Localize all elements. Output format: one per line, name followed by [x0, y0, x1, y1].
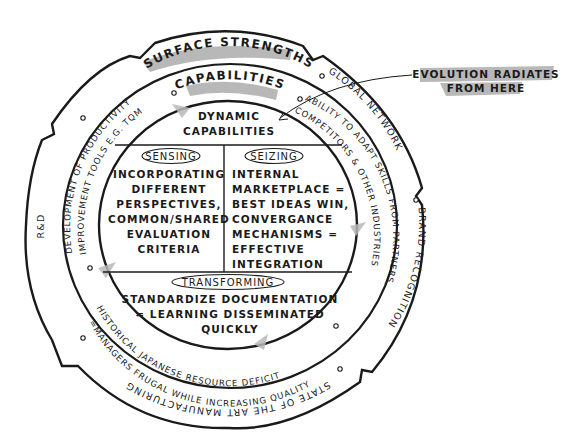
- transforming-line: QUICKLY: [201, 323, 259, 335]
- sensing-line: DIFFERENT: [131, 183, 206, 195]
- dot: [414, 198, 418, 202]
- dot: [81, 116, 85, 120]
- transforming-line: = LEARNING DISSEMINATED: [135, 308, 325, 320]
- dot: [338, 367, 342, 371]
- callout-line-1: EVOLUTION RADIATES: [412, 68, 559, 80]
- seizing-line: INTERNAL: [232, 168, 300, 180]
- seizing-line: MECHANISMS =: [232, 228, 338, 240]
- arrow-mark-right: [350, 222, 366, 236]
- sensing-line: INCORPORATING: [113, 168, 225, 180]
- seizing-label: SEIZING: [250, 151, 298, 162]
- r-and-d-label: R&D: [35, 214, 46, 239]
- dot: [81, 336, 85, 340]
- dynamic-capabilities-title-2: CAPABILITIES: [183, 125, 275, 137]
- callout-line-2: FROM HERE: [447, 82, 526, 94]
- dot: [88, 266, 92, 270]
- dot: [320, 74, 324, 78]
- dot: [172, 91, 176, 95]
- seizing-line: CONVERGANCE: [232, 213, 333, 225]
- transforming-label: TRANSFORMING: [181, 277, 275, 288]
- seizing-line: INTEGRATION: [232, 258, 324, 270]
- seizing-line: EFFECTIVE: [232, 243, 305, 255]
- sensing-line: EVALUATION: [127, 228, 211, 240]
- dot: [334, 324, 338, 328]
- dot: [298, 97, 302, 101]
- sensing-label: SENSING: [145, 151, 197, 162]
- transforming-line: STANDARDIZE DOCUMENTATION: [121, 293, 338, 305]
- dynamic-capabilities-diagram: SURFACE STRENGTHS GLOBAL NETWORK BRAND R…: [0, 0, 574, 448]
- sensing-body: INCORPORATING DIFFERENT PERSPECTIVES, CO…: [108, 168, 230, 255]
- transforming-body: STANDARDIZE DOCUMENTATION = LEARNING DIS…: [121, 293, 338, 335]
- seizing-line: MARKETPLACE =: [232, 183, 345, 195]
- sensing-line: COMMON/SHARED: [108, 213, 230, 225]
- seizing-body: INTERNAL MARKETPLACE = BEST IDEAS WIN, C…: [232, 168, 349, 270]
- seizing-line: BEST IDEAS WIN,: [232, 198, 349, 210]
- sensing-line: PERSPECTIVES,: [116, 198, 221, 210]
- arrow-mark-bottom: [254, 334, 268, 350]
- arrow-mark-left: [98, 262, 116, 278]
- sensing-line: CRITERIA: [138, 243, 201, 255]
- dynamic-capabilities-title-1: DYNAMIC: [198, 110, 260, 122]
